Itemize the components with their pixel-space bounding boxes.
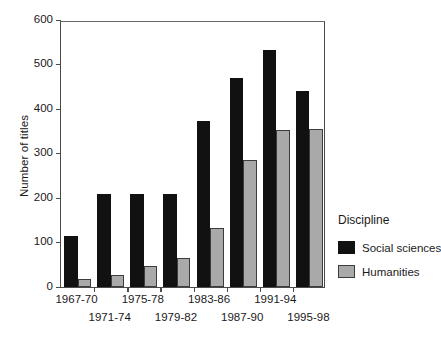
bar-social-sciences xyxy=(263,50,277,287)
x-axis-tick xyxy=(160,287,161,292)
y-tick-label: 200 xyxy=(13,191,53,203)
x-axis-tick xyxy=(194,287,195,292)
x-axis-label: 1979-82 xyxy=(141,311,211,323)
legend-entry: Social sciences xyxy=(338,241,441,254)
x-axis-label: 1971-74 xyxy=(75,311,145,323)
bar-social-sciences xyxy=(64,236,78,287)
legend-title: Discipline xyxy=(338,213,441,227)
x-axis-tick xyxy=(94,287,95,292)
y-tick-label: 0 xyxy=(13,280,53,292)
x-axis-label: 1967-70 xyxy=(42,293,112,305)
legend-entry: Humanities xyxy=(338,265,441,278)
legend: Discipline Social sciencesHumanities xyxy=(338,213,441,289)
bar-humanities xyxy=(243,160,257,287)
bar-social-sciences xyxy=(230,78,244,287)
x-axis-label: 1991-94 xyxy=(240,293,310,305)
bar-social-sciences xyxy=(296,91,310,287)
bar-group xyxy=(197,22,224,287)
bar-social-sciences xyxy=(130,194,144,287)
x-axis-tick xyxy=(260,287,261,292)
bar-group xyxy=(163,22,190,287)
x-axis-label: 1987-90 xyxy=(207,311,277,323)
legend-swatch xyxy=(338,265,355,278)
legend-swatch xyxy=(338,241,355,254)
plot-area: 0100200300400500600 xyxy=(60,21,325,288)
bar-group xyxy=(263,22,290,287)
bar-humanities xyxy=(144,266,158,287)
bar-group-container xyxy=(61,22,324,287)
x-axis-label: 1995-98 xyxy=(273,311,343,323)
legend-entries: Social sciencesHumanities xyxy=(338,241,441,278)
bar-social-sciences xyxy=(97,194,111,287)
y-tick-label: 600 xyxy=(13,13,53,25)
bar-humanities xyxy=(309,129,323,287)
legend-label: Social sciences xyxy=(362,242,441,254)
x-axis-tick xyxy=(227,287,228,292)
bar-group xyxy=(230,22,257,287)
x-axis-label: 1975-78 xyxy=(108,293,178,305)
bar-group xyxy=(130,22,157,287)
bar-social-sciences xyxy=(163,194,177,287)
bar-humanities xyxy=(210,228,224,287)
bar-group xyxy=(296,22,323,287)
x-axis-tick xyxy=(293,287,294,292)
legend-label: Humanities xyxy=(362,266,420,278)
bar-social-sciences xyxy=(197,121,211,287)
x-axis-label: 1983-86 xyxy=(174,293,244,305)
x-axis-tick xyxy=(127,287,128,292)
bar-humanities xyxy=(111,275,125,287)
bar-humanities xyxy=(276,130,290,287)
y-tick-label: 500 xyxy=(13,57,53,69)
bar-group xyxy=(97,22,124,287)
bar-group xyxy=(64,22,91,287)
y-tick-label: 400 xyxy=(13,102,53,114)
y-tick-label: 300 xyxy=(13,146,53,158)
bar-humanities xyxy=(177,258,191,287)
y-tick-label: 100 xyxy=(13,235,53,247)
y-tick-mark xyxy=(56,20,61,21)
bar-humanities xyxy=(78,279,92,287)
